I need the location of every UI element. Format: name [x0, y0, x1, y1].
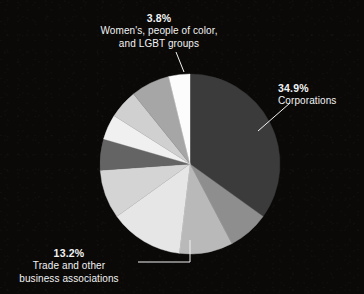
- callout-trade-category: Trade and other business associations: [2, 260, 136, 286]
- callout-corporations-percent: 34.9%: [278, 82, 362, 95]
- callout-corporations-category: Corporations: [278, 95, 362, 108]
- callout-women-percent: 3.8%: [74, 12, 244, 25]
- leader-line-women: [176, 52, 184, 72]
- callout-women-category: Women's, people of color, and LGBT group…: [74, 25, 244, 51]
- callout-trade-percent: 13.2%: [2, 247, 136, 260]
- chart-canvas: 3.8% Women's, people of color, and LGBT …: [0, 0, 364, 294]
- callout-women-people-of-color-lgbt: 3.8% Women's, people of color, and LGBT …: [74, 12, 244, 51]
- callout-corporations: 34.9% Corporations: [278, 82, 362, 108]
- pie-slice-group: [100, 74, 280, 254]
- callout-trade-business-associations: 13.2% Trade and other business associati…: [2, 247, 136, 286]
